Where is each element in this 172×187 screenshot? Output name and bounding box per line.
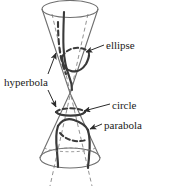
circle-cross-section — [56, 108, 85, 115]
circle-label: circle — [112, 100, 136, 111]
circle-back-arc — [56, 108, 85, 112]
ellipse-cross-section — [62, 48, 89, 72]
hyperbola-plane-line-right — [50, 14, 88, 186]
leader-arrows — [48, 45, 110, 129]
upper-cone-rim-ellipse — [42, 1, 98, 18]
hyperbola-lower-leader-arrow — [48, 90, 56, 107]
parabola-hidden-arc — [60, 133, 86, 141]
ellipse-leader-arrow — [86, 45, 104, 52]
ellipse-label: ellipse — [106, 40, 135, 51]
hyperbola-upper-leader-arrow — [48, 53, 56, 74]
hyperbola-cutting-plane — [50, 14, 92, 186]
parabola-label: parabola — [104, 120, 142, 131]
parabola-vertex-arc — [58, 119, 88, 130]
parabola-leader-arrow — [90, 124, 102, 129]
conic-sections-drawing — [0, 0, 172, 187]
parabola-left-branch — [56, 126, 58, 167]
hyperbola-label: hyperbola — [4, 77, 48, 88]
conic-sections-figure: ellipse circle parabola hyperbola — [0, 0, 172, 187]
lower-cone-base-hidden-arc — [40, 148, 100, 158]
parabola-base-guide — [44, 148, 96, 152]
circle-leader-arrow — [84, 104, 110, 111]
parabola-right-branch — [88, 130, 90, 168]
circle-front-arc — [56, 112, 85, 116]
ellipse-back-arc — [62, 48, 89, 57]
upper-cone-right-edge — [70, 9, 98, 93]
lower-cone — [40, 93, 100, 168]
parabola-cross-section — [44, 119, 96, 168]
